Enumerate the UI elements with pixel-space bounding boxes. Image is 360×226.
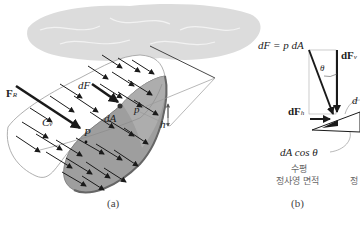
label-area-element: dA xyxy=(104,113,116,124)
label-centroid: Cv xyxy=(42,117,52,128)
fluid-surface-cloud xyxy=(27,4,261,61)
korean-label-partial: 정 xyxy=(350,177,358,186)
label-depth: h xyxy=(160,119,166,130)
label-vertical-force: dFv xyxy=(341,50,357,61)
label-pressure-point: P xyxy=(84,127,91,138)
curved-surface xyxy=(7,55,166,192)
label-angle: θ xyxy=(320,64,324,73)
label-equation: dF = p dA xyxy=(258,40,304,51)
label-projected-area: dA cos θ xyxy=(280,147,318,158)
diagram-canvas xyxy=(0,0,360,226)
label-element-force: dF xyxy=(78,80,90,91)
caption-panel-b: (b) xyxy=(291,198,304,209)
label-resultant-force: FR xyxy=(6,88,17,99)
label-pressure: p xyxy=(134,104,140,115)
korean-label-horizontal: 수평 xyxy=(291,165,307,174)
label-horizontal-force: dFh xyxy=(288,106,304,117)
center-of-pressure-dot xyxy=(85,141,88,144)
label-area-partial: d xyxy=(352,95,358,106)
korean-label-projected-area: 정사영 면적 xyxy=(276,177,319,186)
caption-panel-a: (a) xyxy=(107,198,119,209)
